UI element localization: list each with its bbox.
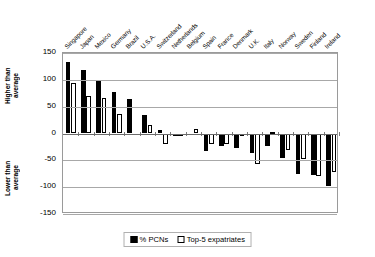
axis-annotation-higher: Higher than average (4, 56, 19, 116)
bar-expatriates (301, 134, 306, 159)
legend-label-expatriates: Top-5 expatriates (187, 235, 245, 244)
bar-expatriates (102, 98, 107, 133)
category-label-u-s-a: U.S.A. (139, 32, 157, 50)
category-label-u-k: U.K. (247, 37, 260, 50)
bar-expatriates (332, 134, 337, 173)
bar-expatriates (71, 83, 76, 133)
bar-expatriates (86, 96, 91, 133)
category-label-italy: Italy (262, 37, 275, 50)
bar-pcns (219, 134, 224, 146)
bar-pcns (250, 134, 255, 154)
bar-pcns (265, 134, 270, 146)
bar-expatriates (163, 134, 168, 144)
y-axis-tick-label: 0 (18, 129, 56, 137)
y-axis-tick-labels: 150100500-50-100-150 (18, 0, 56, 257)
y-axis-tick-label: -50 (18, 155, 56, 163)
y-axis-tick-label: 100 (18, 75, 56, 83)
category-label-france: France (216, 31, 235, 50)
bar-expatriates (148, 125, 153, 134)
legend-label-pcns: % PCNs (140, 235, 169, 244)
bar-expatriates (316, 134, 321, 177)
legend-item-pcns: % PCNs (130, 235, 168, 244)
gridline (63, 214, 337, 215)
bar-expatriates (209, 134, 214, 145)
bar-pcns (142, 115, 147, 133)
bar-pcns (204, 134, 209, 152)
bar-pcns (234, 134, 239, 148)
gridline (63, 53, 337, 54)
plot-area (62, 52, 338, 213)
legend-swatch-expatriates-icon (177, 236, 184, 243)
gridline (63, 187, 337, 188)
zero-line (63, 134, 337, 135)
category-axis-labels: SingaporeJapanMexicoGermanyBrazilU.S.A.S… (0, 0, 375, 52)
category-label-mexico: Mexico (93, 31, 112, 50)
bar-expatriates (286, 134, 291, 150)
gridline (63, 160, 337, 161)
bar-pcns (280, 134, 285, 158)
y-axis-tick-label: 150 (18, 48, 56, 56)
bar-pcns (296, 134, 301, 175)
bar-expatriates (224, 134, 229, 144)
y-axis-tick-label: -100 (18, 182, 56, 190)
bar-pcns (112, 92, 117, 134)
bar-pcns (127, 99, 132, 134)
gridline (63, 107, 337, 108)
bar-expatriates (117, 114, 122, 133)
x-axis-tick-mark (339, 132, 340, 136)
legend-item-expatriates: Top-5 expatriates (177, 235, 245, 244)
bar-pcns (66, 62, 71, 134)
bar-expatriates (255, 134, 260, 164)
bar-pcns (311, 134, 316, 175)
gridline (63, 80, 337, 81)
chart-legend: % PCNs Top-5 expatriates (123, 232, 252, 247)
y-axis-tick-label: -150 (18, 209, 56, 217)
legend-swatch-pcns-icon (130, 236, 137, 243)
chart-container: SingaporeJapanMexicoGermanyBrazilU.S.A.S… (0, 0, 375, 257)
y-axis-tick-label: 50 (18, 102, 56, 110)
axis-annotation-lower: Lower than average (4, 148, 19, 208)
